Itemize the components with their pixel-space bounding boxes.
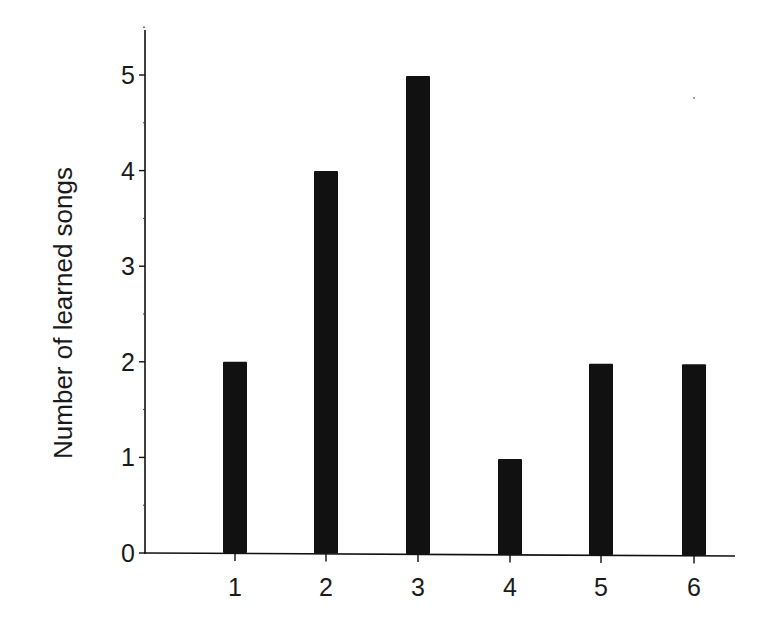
y-tick-label: 0: [121, 539, 135, 567]
bars: [223, 76, 706, 556]
bar-chart: 012345 123456: [0, 0, 772, 625]
x-tick-label: 6: [687, 573, 701, 601]
bar-5: [589, 364, 613, 555]
y-tick-label: 4: [121, 157, 135, 185]
speck: [693, 97, 695, 99]
x-tick-label: 1: [228, 573, 242, 601]
bar-3: [406, 76, 430, 554]
y-axis-ticks: 012345: [121, 27, 145, 567]
y-tick-label: 2: [121, 348, 135, 376]
bar-2: [314, 171, 338, 553]
x-tick-label: 3: [411, 573, 425, 601]
y-tick-label: 1: [121, 443, 135, 471]
y-tick-label: 3: [121, 252, 135, 280]
x-axis-line: [145, 553, 735, 556]
bar-1: [223, 362, 247, 553]
bar-6: [682, 364, 706, 555]
x-tick-label: 4: [503, 573, 517, 601]
x-tick-label: 5: [594, 573, 608, 601]
bar-4: [498, 459, 522, 555]
y-tick-label: 5: [121, 61, 135, 89]
x-axis-ticks: 123456: [228, 553, 701, 601]
x-tick-label: 2: [319, 573, 333, 601]
